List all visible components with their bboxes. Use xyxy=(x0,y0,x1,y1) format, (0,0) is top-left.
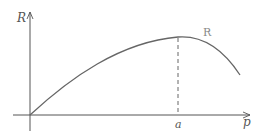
curve-label: R xyxy=(203,26,212,39)
revenue-curve-figure: R R a p xyxy=(0,0,262,135)
tick-label-a: a xyxy=(175,118,182,131)
x-axis-label: p xyxy=(243,115,251,129)
r-curve xyxy=(30,37,240,115)
y-axis-label: R xyxy=(16,11,26,25)
